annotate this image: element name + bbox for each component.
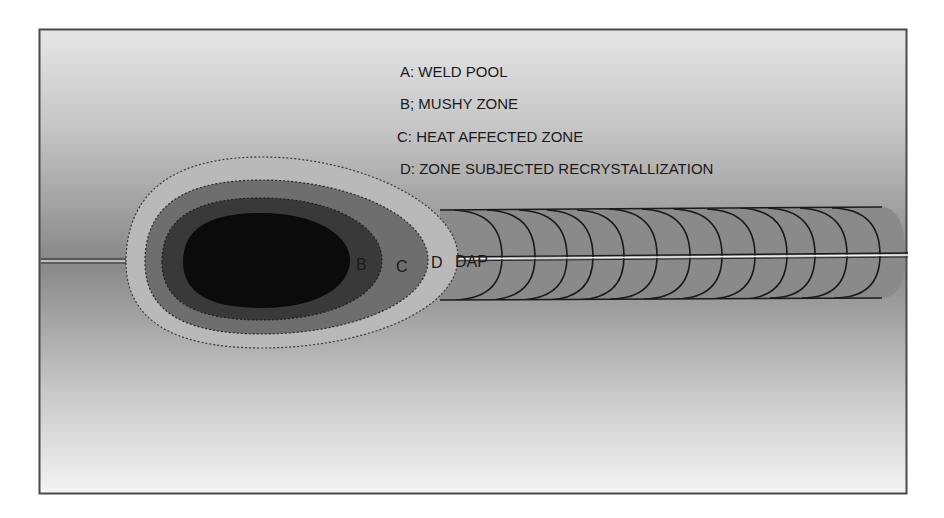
zone-label-d: D: [431, 254, 443, 271]
legend-item-b: B; MUSHY ZONE: [400, 95, 518, 112]
legend-item-d: D: ZONE SUBJECTED RECRYSTALLIZATION: [400, 160, 713, 177]
weld-bead: [440, 207, 908, 300]
zone-label-dap: DAP: [455, 253, 488, 270]
zone-label-b: B: [356, 256, 367, 273]
legend-item-a: A: WELD POOL: [400, 63, 508, 80]
zone-a-weld-pool: [183, 213, 350, 308]
weld-zone-diagram: B C D DAP A: WELD POOL B; MUSHY ZONE C: …: [0, 0, 944, 518]
legend-item-c: C: HEAT AFFECTED ZONE: [397, 128, 583, 145]
zone-label-c: C: [396, 258, 408, 275]
